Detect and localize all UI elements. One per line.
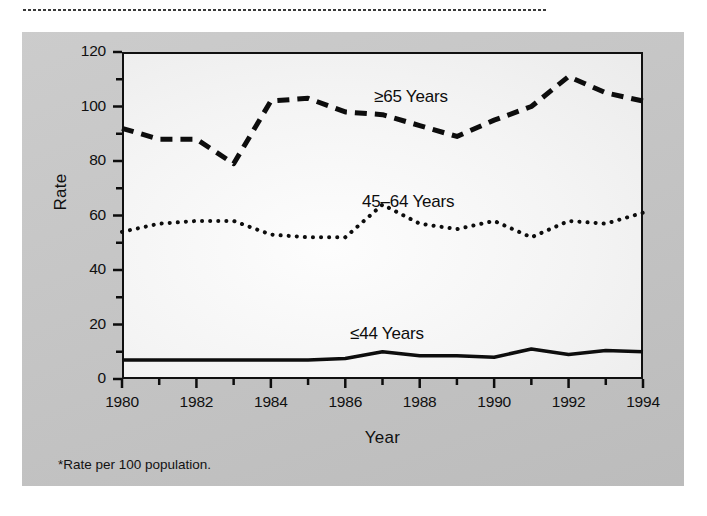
series-label-45-64: 45–64 Years: [362, 192, 454, 212]
y-tick-label: 40: [26, 260, 106, 278]
y-axis-title: Rate: [51, 147, 71, 237]
x-axis-title: Year: [122, 428, 643, 448]
x-tick-label: 1992: [539, 393, 599, 411]
x-tick-label: 1994: [613, 393, 673, 411]
series-label-44-under: ≤44 Years: [350, 324, 424, 344]
x-tick-label: 1988: [390, 393, 450, 411]
y-tick-label: 120: [26, 42, 106, 60]
series-label-65-plus: ≥65 Years: [374, 87, 448, 107]
x-tick-label: 1986: [315, 393, 375, 411]
figure-container: 020406080100120 198019821984198619881990…: [0, 0, 707, 516]
chart-svg: [22, 32, 684, 486]
chart-footnote: *Rate per 100 population.: [58, 457, 211, 472]
chart-panel: 020406080100120 198019821984198619881990…: [22, 32, 684, 486]
y-tick-label: 100: [26, 97, 106, 115]
dotted-rule-divider: [22, 8, 546, 12]
y-tick-label: 0: [26, 369, 106, 387]
x-tick-label: 1984: [241, 393, 301, 411]
x-tick-label: 1982: [166, 393, 226, 411]
y-tick-label: 20: [26, 315, 106, 333]
x-tick-label: 1990: [464, 393, 524, 411]
x-tick-label: 1980: [92, 393, 152, 411]
series-line-2: [122, 349, 643, 360]
series-lines: [122, 77, 643, 360]
